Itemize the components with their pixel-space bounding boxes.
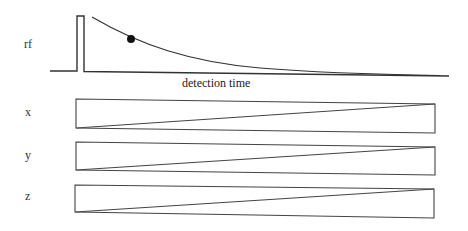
- z-gradient: [75, 185, 434, 218]
- z-gradient-ramp: [75, 189, 434, 212]
- y-gradient-ramp: [76, 147, 435, 170]
- rf-row: [50, 16, 449, 76]
- sample-point: [127, 35, 135, 43]
- x-gradient: [76, 99, 435, 133]
- z-gradient-box: [75, 185, 434, 218]
- x-gradient-ramp: [76, 104, 435, 128]
- waveforms: [0, 0, 468, 231]
- signal-decay-curve: [92, 17, 440, 76]
- y-gradient: [76, 142, 435, 175]
